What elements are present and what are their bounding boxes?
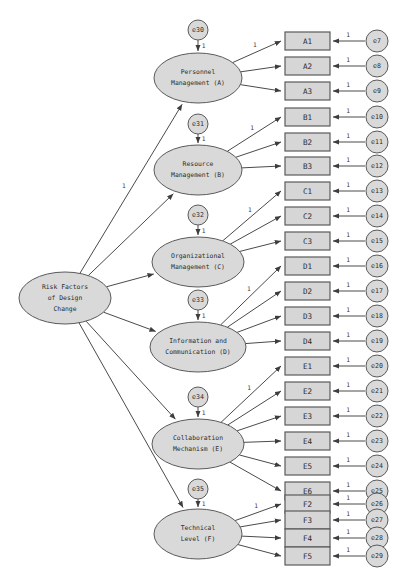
loading-coefficient-F-F2: 1 [254,502,258,509]
observed-variable-label-F3: F3 [303,516,312,525]
error-coefficient-e7: 1 [346,31,350,38]
exogenous-latent-label-line3: Change [53,305,76,313]
error-coefficient-e29: 1 [346,546,350,553]
error-coefficient-e26: 1 [346,494,350,501]
error-term-label-e27: e27 [371,516,383,524]
disturbance-coefficient-B: 1 [202,135,206,142]
observed-variable-label-A1: A1 [303,37,313,46]
error-term-label-e18: e18 [371,312,383,320]
loading-path-F-to-F5 [238,545,281,556]
latent-construct-label-A-line2: Management (A) [171,79,225,87]
sem-path-diagram: e7A1e8A2e9A3e10B1e11B2e12B3e13C1e14C2e15… [0,0,406,587]
disturbance-coefficient-C: 1 [202,227,206,234]
error-coefficient-e28: 1 [346,528,350,535]
observed-variable-label-D3: D3 [303,312,312,321]
error-term-label-e29: e29 [371,552,383,560]
error-term-label-e7: e7 [373,37,381,45]
loading-path-E-to-E6 [230,462,281,491]
error-coefficient-e20: 1 [346,356,350,363]
error-coefficient-e8: 1 [346,56,350,63]
error-coefficient-e22: 1 [346,406,350,413]
loading-coefficient-C-C1: 1 [248,206,252,213]
loading-coefficient-E-E1: 1 [247,384,251,391]
latent-construct-label-E-line1: Collaboration [173,434,223,442]
loading-path-D-to-D4 [246,341,281,344]
error-coefficient-e24: 1 [346,456,350,463]
observed-variable-label-D1: D1 [303,262,313,271]
latent-construct-label-F-line1: Technical [181,524,216,532]
loading-path-C-to-C2 [230,216,281,244]
loading-path-B-to-B2 [236,142,281,157]
observed-variable-label-F4: F4 [303,534,313,543]
loading-path-E-to-E4 [244,441,281,442]
error-coefficient-e19: 1 [346,331,350,338]
disturbance-label-e34: e34 [192,393,204,401]
latent-construct-F [154,509,242,559]
error-term-label-e14: e14 [371,212,383,220]
loading-path-A-to-A3 [240,85,281,91]
observed-variable-label-B2: B2 [303,138,312,147]
error-coefficient-e25: 1 [346,481,350,488]
exogenous-latent-label-line2: of Design [48,294,83,302]
error-term-label-e16: e16 [371,262,383,270]
observed-variable-label-E5: E5 [303,462,312,471]
error-term-label-e23: e23 [371,437,383,445]
error-term-label-e11: e11 [371,138,383,146]
observed-variable-label-A3: A3 [303,87,312,96]
loading-path-D-to-D3 [237,316,281,332]
latent-construct-E [152,419,244,469]
latent-construct-D [150,322,246,372]
exogenous-latent-label-line1: Risk Factors [42,283,88,291]
error-coefficient-e9: 1 [346,81,350,88]
latent-construct-label-D-line2: Communication (D) [165,348,230,356]
error-term-label-e26: e26 [371,500,383,508]
disturbance-label-e33: e33 [192,296,204,304]
disturbance-label-e31: e31 [192,120,204,128]
latent-construct-label-C-line1: Organizational [171,252,225,260]
loading-path-B-to-B1 [227,117,281,151]
observed-variable-label-C1: C1 [303,187,313,196]
error-term-label-e19: e19 [371,337,383,345]
error-coefficient-e27: 1 [346,510,350,517]
observed-variable-label-A2: A2 [303,62,312,71]
latent-construct-label-C-line2: Management (C) [171,263,225,271]
loading-path-A-to-A1 [233,41,281,63]
error-term-label-e12: e12 [371,162,383,170]
loading-path-C-to-C3 [240,241,281,251]
loading-path-E-to-E1 [221,366,281,422]
latent-construct-label-E-line2: Mechanism (E) [173,445,223,453]
structural-path-RF-to-D [104,312,156,331]
error-coefficient-e18: 1 [346,306,350,313]
latent-construct-B [154,145,242,195]
observed-variable-label-F2: F2 [303,500,312,509]
observed-variable-label-E2: E2 [303,387,312,396]
error-term-label-e28: e28 [371,534,383,542]
loading-path-C-to-C1 [223,191,281,241]
loading-coefficient-A-A1: 1 [253,41,257,48]
error-term-label-e9: e9 [373,87,381,95]
loading-path-B-to-B3 [242,166,281,168]
error-term-label-e24: e24 [371,462,383,470]
latent-construct-label-D-line1: Information and [169,337,227,345]
latent-construct-label-B-line1: Resource [183,160,214,168]
loading-path-F-to-F2 [235,504,281,521]
error-coefficient-e14: 1 [346,206,350,213]
error-coefficient-e16: 1 [346,256,350,263]
error-term-label-e8: e8 [373,62,381,70]
disturbance-coefficient-E: 1 [202,409,206,416]
error-term-label-e10: e10 [371,113,383,121]
disturbance-coefficient-F: 1 [202,500,206,507]
disturbance-coefficient-D: 1 [202,312,206,319]
disturbance-label-e32: e32 [192,211,204,219]
structural-coefficient-RF-A: 1 [122,182,126,189]
observed-variable-label-C2: C2 [303,212,312,221]
latent-construct-label-B-line2: Management (B) [171,171,225,179]
error-coefficient-e11: 1 [346,132,350,139]
error-term-label-e22: e22 [371,412,383,420]
error-coefficient-e23: 1 [346,431,350,438]
observed-variable-label-B3: B3 [303,162,312,171]
node-layer: e7A1e8A2e9A3e10B1e11B2e12B3e13C1e14C2e15… [19,20,388,567]
loading-path-D-to-D2 [227,291,281,327]
error-term-label-e21: e21 [371,387,383,395]
observed-variable-label-C3: C3 [303,237,312,246]
